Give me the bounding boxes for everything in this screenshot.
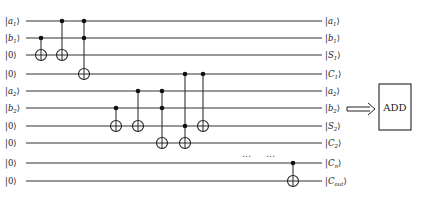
target-xor-icon bbox=[180, 138, 191, 149]
control-dot bbox=[114, 106, 119, 111]
input-state-label: |0⟩ bbox=[5, 69, 17, 80]
input-state-label: |0⟩ bbox=[5, 121, 17, 132]
ellipsis-group: … … bbox=[242, 149, 275, 159]
output-state-label: |a2⟩ bbox=[325, 86, 340, 97]
control-dot bbox=[136, 89, 141, 94]
target-xor-icon bbox=[79, 69, 90, 80]
svg-text:|0⟩: |0⟩ bbox=[5, 138, 17, 149]
wires bbox=[26, 21, 322, 181]
svg-text:|b1⟩: |b1⟩ bbox=[325, 33, 340, 44]
gates bbox=[36, 19, 299, 187]
svg-text:|b2⟩: |b2⟩ bbox=[5, 103, 20, 114]
control-dot bbox=[291, 161, 296, 166]
output-state-label: |S2⟩ bbox=[325, 121, 341, 132]
cnot-gate bbox=[57, 19, 68, 61]
cnot-gate bbox=[133, 89, 144, 132]
cnot-gate bbox=[288, 161, 299, 187]
control-dot bbox=[82, 19, 87, 24]
svg-text:|a1⟩: |a1⟩ bbox=[5, 16, 20, 27]
svg-text:|C1⟩: |C1⟩ bbox=[325, 69, 341, 80]
output-state-label: |C2⟩ bbox=[325, 138, 341, 149]
input-state-label: |a1⟩ bbox=[5, 16, 20, 27]
labels: |a1⟩|a1⟩|b1⟩|b1⟩|0⟩|S1⟩|0⟩|C1⟩|a2⟩|a2⟩|b… bbox=[5, 16, 347, 187]
output-state-label: |b1⟩ bbox=[325, 33, 340, 44]
target-xor-icon bbox=[157, 138, 168, 149]
circuit-canvas: |a1⟩|a1⟩|b1⟩|b1⟩|0⟩|S1⟩|0⟩|C1⟩|a2⟩|a2⟩|b… bbox=[0, 0, 424, 202]
control-dot bbox=[183, 72, 188, 77]
output-state-label: |a1⟩ bbox=[325, 16, 340, 27]
svg-text:|a2⟩: |a2⟩ bbox=[5, 86, 20, 97]
control-dot bbox=[39, 36, 44, 41]
svg-text:|S1⟩: |S1⟩ bbox=[325, 50, 341, 61]
double-right-arrow-icon bbox=[347, 103, 375, 115]
add-block: ADD bbox=[379, 84, 411, 130]
output-state-label: |Cout⟩ bbox=[325, 176, 347, 187]
svg-text:|0⟩: |0⟩ bbox=[5, 69, 17, 80]
quantum-adder-diagram: |a1⟩|a1⟩|b1⟩|b1⟩|0⟩|S1⟩|0⟩|C1⟩|a2⟩|a2⟩|b… bbox=[0, 0, 424, 202]
output-state-label: |b2⟩ bbox=[325, 103, 340, 114]
control-dot bbox=[160, 89, 165, 94]
svg-text:|b1⟩: |b1⟩ bbox=[5, 33, 20, 44]
add-label: ADD bbox=[382, 102, 406, 113]
ellipsis-1: … bbox=[242, 149, 251, 159]
svg-text:|0⟩: |0⟩ bbox=[5, 158, 17, 169]
svg-text:|Cout⟩: |Cout⟩ bbox=[325, 176, 347, 187]
input-state-label: |0⟩ bbox=[5, 176, 17, 187]
input-state-label: |b2⟩ bbox=[5, 103, 20, 114]
input-state-label: |0⟩ bbox=[5, 50, 17, 61]
svg-text:|b2⟩: |b2⟩ bbox=[325, 103, 340, 114]
output-state-label: |S1⟩ bbox=[325, 50, 341, 61]
output-state-label: |Cn⟩ bbox=[325, 158, 341, 169]
svg-text:|0⟩: |0⟩ bbox=[5, 176, 17, 187]
control-dot bbox=[82, 36, 87, 41]
toffoli-gate bbox=[180, 72, 191, 149]
input-state-label: |0⟩ bbox=[5, 158, 17, 169]
target-xor-icon bbox=[57, 50, 68, 61]
svg-text:|0⟩: |0⟩ bbox=[5, 121, 17, 132]
cnot-gate bbox=[36, 36, 47, 61]
input-state-label: |0⟩ bbox=[5, 138, 17, 149]
target-xor-icon bbox=[133, 121, 144, 132]
cnot-gate bbox=[198, 72, 209, 132]
toffoli-gate bbox=[79, 19, 90, 80]
control-dot bbox=[160, 106, 165, 111]
target-xor-icon bbox=[111, 121, 122, 132]
control-dot bbox=[60, 19, 65, 24]
svg-text:|0⟩: |0⟩ bbox=[5, 50, 17, 61]
svg-text:|Cn⟩: |Cn⟩ bbox=[325, 158, 341, 169]
target-xor-icon bbox=[288, 176, 299, 187]
output-state-label: |C1⟩ bbox=[325, 69, 341, 80]
control-dot bbox=[201, 72, 206, 77]
svg-text:|C2⟩: |C2⟩ bbox=[325, 138, 341, 149]
target-xor-icon bbox=[36, 50, 47, 61]
cnot-gate bbox=[111, 106, 122, 132]
toffoli-gate bbox=[157, 89, 168, 149]
control-dot bbox=[183, 124, 188, 129]
ellipsis-2: … bbox=[266, 149, 275, 159]
input-state-label: |b1⟩ bbox=[5, 33, 20, 44]
svg-text:|a2⟩: |a2⟩ bbox=[325, 86, 340, 97]
input-state-label: |a2⟩ bbox=[5, 86, 20, 97]
target-xor-icon bbox=[198, 121, 209, 132]
svg-text:|a1⟩: |a1⟩ bbox=[325, 16, 340, 27]
svg-text:|S2⟩: |S2⟩ bbox=[325, 121, 341, 132]
